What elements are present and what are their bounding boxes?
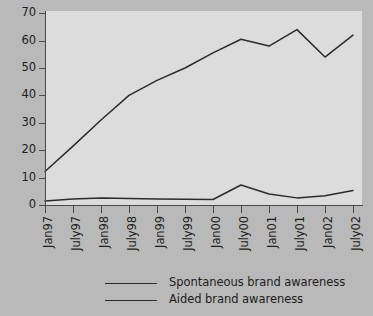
x-axis-tick-label: July99 <box>183 216 195 251</box>
y-axis-tick-label: 20 <box>4 144 36 156</box>
x-axis-tick-label: Jan02 <box>323 216 335 248</box>
x-axis-tick <box>353 206 354 213</box>
y-axis-line <box>45 11 46 206</box>
x-axis-tick <box>325 206 326 213</box>
y-axis-tick <box>39 150 45 151</box>
y-axis-tick <box>39 178 45 179</box>
legend-label: Aided brand awareness <box>169 294 303 306</box>
chart-container: 010203040506070 Jan97July97Jan98July98Ja… <box>0 0 373 316</box>
x-axis-tick <box>241 206 242 213</box>
x-axis-tick-label: July00 <box>239 216 251 251</box>
plot-svg <box>45 11 362 205</box>
x-axis-tick-label: July01 <box>295 216 307 251</box>
x-axis-tick <box>157 206 158 213</box>
y-axis-tick-label: 60 <box>4 35 36 47</box>
legend-label: Spontaneous brand awareness <box>169 277 345 289</box>
plot-area <box>45 11 362 205</box>
x-axis-tick <box>45 206 46 213</box>
y-axis-tick <box>39 41 45 42</box>
x-axis-tick <box>129 206 130 213</box>
x-axis-tick <box>269 206 270 213</box>
x-axis-tick-label: July97 <box>71 216 83 251</box>
series-line-spontaneous-brand-awareness <box>45 185 353 201</box>
x-axis-tick-label: July98 <box>127 216 139 251</box>
y-axis-tick-label: 0 <box>4 199 36 211</box>
y-axis-tick <box>39 95 45 96</box>
y-axis-tick-label: 10 <box>4 172 36 184</box>
x-axis-tick <box>185 206 186 213</box>
x-axis-tick <box>297 206 298 213</box>
x-axis-tick-label: Jan00 <box>211 216 223 248</box>
x-axis-tick-label: Jan97 <box>43 216 55 248</box>
x-axis-tick-label: July02 <box>351 216 363 251</box>
y-axis-tick <box>39 13 45 14</box>
x-axis-tick <box>73 206 74 213</box>
x-axis-tick-label: Jan98 <box>99 216 111 248</box>
x-axis-tick-label: Jan01 <box>267 216 279 248</box>
y-axis-tick-label: 50 <box>4 62 36 74</box>
y-axis-tick-label: 40 <box>4 89 36 101</box>
y-axis-tick <box>39 123 45 124</box>
y-axis-tick <box>39 68 45 69</box>
y-axis-tick-label: 30 <box>4 117 36 129</box>
series-line-aided-brand-awareness <box>45 30 353 172</box>
legend-item-spontaneous-brand-awareness: Spontaneous brand awareness <box>105 275 345 291</box>
legend-line-icon <box>105 300 157 301</box>
x-axis-tick <box>213 206 214 213</box>
x-axis-line <box>45 205 363 206</box>
legend-item-aided-brand-awareness: Aided brand awareness <box>105 292 303 308</box>
legend-line-icon <box>105 283 157 284</box>
x-axis-tick-label: Jan99 <box>155 216 167 248</box>
x-axis-tick <box>101 206 102 213</box>
y-axis-tick-label: 70 <box>4 7 36 19</box>
